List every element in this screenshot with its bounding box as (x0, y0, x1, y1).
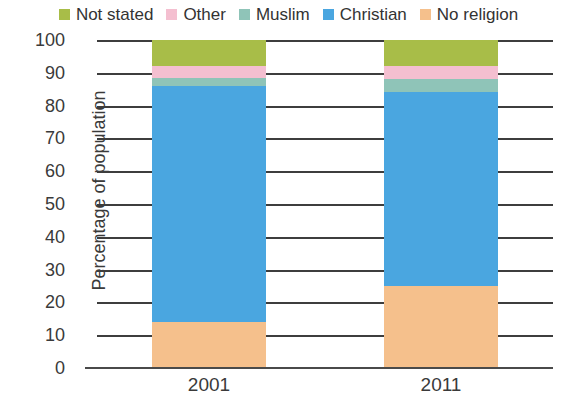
x-tick-label-2001: 2001 (129, 374, 289, 396)
legend-item-christian[interactable]: Christian (323, 6, 407, 23)
legend-label-other: Other (183, 6, 226, 23)
bar-2011[interactable] (384, 40, 498, 368)
legend-swatch-muslim (239, 9, 250, 20)
legend-swatch-christian (323, 9, 334, 20)
chart-legend: Not stated Other Muslim Christian No rel… (0, 6, 577, 23)
y-tick-label: 90 (5, 64, 65, 82)
x-tick-label-2011: 2011 (361, 374, 521, 396)
plot-area: Percentage of population 100 90 80 70 60… (97, 40, 553, 368)
legend-label-not-stated: Not stated (76, 6, 154, 23)
y-tick-label: 0 (5, 359, 65, 377)
y-tick-label: 30 (5, 261, 65, 279)
bar-segment-no-religion[interactable] (152, 322, 266, 368)
y-tick-label: 10 (5, 326, 65, 344)
legend-item-muslim[interactable]: Muslim (239, 6, 310, 23)
legend-item-other[interactable]: Other (166, 6, 226, 23)
y-tick-label: 60 (5, 162, 65, 180)
y-tick-label: 20 (5, 293, 65, 311)
y-tick-label: 80 (5, 97, 65, 115)
bar-segment-other[interactable] (152, 66, 266, 77)
legend-label-christian: Christian (340, 6, 407, 23)
stacked-bar-chart: Not stated Other Muslim Christian No rel… (0, 0, 577, 420)
bar-segment-not-stated[interactable] (152, 40, 266, 66)
legend-swatch-no-religion (420, 9, 431, 20)
bar-segment-muslim[interactable] (152, 78, 266, 86)
y-tick-label: 70 (5, 129, 65, 147)
y-tick-label: 100 (5, 31, 65, 49)
legend-swatch-other (166, 9, 177, 20)
legend-swatch-not-stated (59, 9, 70, 20)
bar-segment-christian[interactable] (384, 92, 498, 286)
bar-segment-no-religion[interactable] (384, 286, 498, 368)
legend-item-no-religion[interactable]: No religion (420, 6, 518, 23)
bar-segment-christian[interactable] (152, 86, 266, 322)
bar-2001[interactable] (152, 40, 266, 368)
y-tick-label: 50 (5, 195, 65, 213)
legend-label-no-religion: No religion (437, 6, 518, 23)
legend-label-muslim: Muslim (256, 6, 310, 23)
y-tick-label: 40 (5, 228, 65, 246)
bar-segment-muslim[interactable] (384, 79, 498, 92)
x-axis-baseline (85, 367, 553, 369)
bar-segment-not-stated[interactable] (384, 40, 498, 66)
y-axis-title: Percentage of population (89, 21, 110, 361)
bar-segment-other[interactable] (384, 66, 498, 79)
